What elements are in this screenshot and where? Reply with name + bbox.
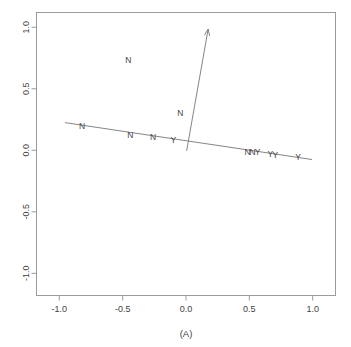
data-point-label-N: N	[150, 132, 156, 142]
data-point-label-Y: Y	[170, 135, 176, 145]
y-tick-label: 0.0	[22, 144, 32, 157]
y-tick-label: -0.5	[22, 204, 32, 220]
x-tick-label: -1.0	[52, 304, 68, 314]
data-point-label-N: N	[127, 130, 133, 140]
data-point-label-Y: Y	[255, 147, 261, 157]
x-tick-label: -0.5	[115, 304, 131, 314]
x-tick-label: 0.0	[180, 304, 193, 314]
plot-title-clipped	[0, 0, 351, 1]
x-tick-label: 0.5	[243, 304, 256, 314]
x-axis-title: (A)	[180, 328, 193, 339]
x-tick-label: 1.0	[306, 304, 319, 314]
data-point-label-N: N	[177, 108, 183, 118]
data-point-label-Y: Y	[295, 152, 301, 162]
y-tick-label: -1.0	[22, 266, 32, 282]
direction-arrow-shaft	[187, 29, 209, 151]
data-point-label-Y: Y	[272, 150, 278, 160]
data-point-label-N: N	[79, 121, 85, 131]
scatter-plot-figure: -1.0-0.50.00.51.0-1.0-0.50.00.51.0(A)NNN…	[0, 0, 351, 347]
data-point-label-N: N	[125, 55, 131, 65]
y-tick-label: 1.0	[22, 21, 32, 34]
plot-canvas: -1.0-0.50.00.51.0-1.0-0.50.00.51.0(A)NNN…	[0, 0, 351, 347]
plot-frame	[37, 13, 336, 296]
y-tick-label: 0.5	[22, 83, 32, 96]
